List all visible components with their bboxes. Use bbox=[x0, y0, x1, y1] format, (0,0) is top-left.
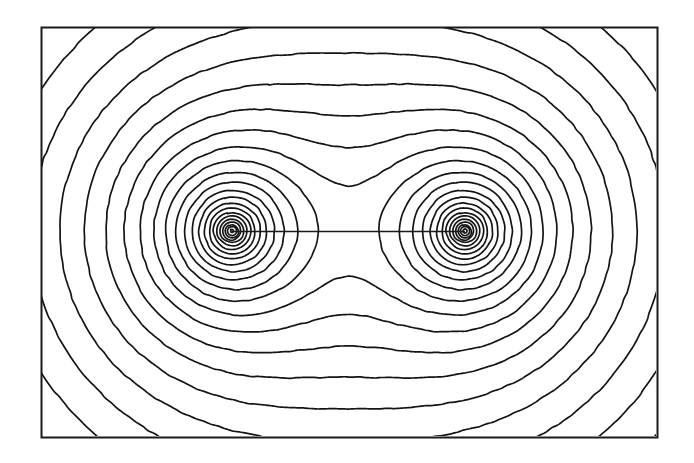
figure-root: Contour plot of the electric potential o… bbox=[0, 0, 694, 463]
equipotential-contour-plot bbox=[0, 0, 694, 463]
